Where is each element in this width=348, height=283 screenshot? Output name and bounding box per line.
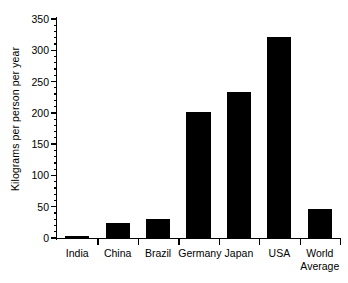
y-minor-tick-mark <box>54 219 58 220</box>
x-tick-mark <box>219 239 220 245</box>
x-axis-label: Brazil <box>138 247 178 260</box>
y-minor-tick-mark <box>54 62 58 63</box>
y-minor-tick-mark <box>54 131 58 132</box>
y-minor-tick-mark <box>54 119 58 120</box>
x-axis-label: India <box>57 247 97 260</box>
y-tick-mark <box>51 206 57 207</box>
y-tick-label: 300 <box>9 43 49 57</box>
y-tick-mark <box>51 175 57 176</box>
bar <box>227 92 251 238</box>
x-axis-label: World Average <box>300 247 340 272</box>
y-minor-tick-mark <box>54 100 58 101</box>
y-minor-tick-mark <box>54 56 58 57</box>
x-axis-label: Japan <box>219 247 259 260</box>
y-tick-label: 350 <box>9 12 49 26</box>
y-tick-label: 150 <box>9 137 49 151</box>
x-tick-mark <box>300 239 301 245</box>
y-tick-mark <box>51 50 57 51</box>
y-minor-tick-mark <box>54 187 58 188</box>
y-minor-tick-mark <box>54 194 58 195</box>
y-minor-tick-mark <box>54 125 58 126</box>
bar <box>146 219 170 238</box>
y-minor-tick-mark <box>54 93 58 94</box>
x-axis-label: Germany <box>178 247 218 260</box>
y-tick-mark <box>51 18 57 19</box>
bar <box>267 37 291 238</box>
x-tick-mark <box>97 239 98 245</box>
y-minor-tick-mark <box>54 156 58 157</box>
y-tick-label: 100 <box>9 168 49 182</box>
bar <box>106 223 130 238</box>
y-minor-tick-mark <box>54 225 58 226</box>
bar <box>186 112 210 238</box>
y-minor-tick-mark <box>54 231 58 232</box>
y-tick-mark <box>51 112 57 113</box>
y-minor-tick-mark <box>54 200 58 201</box>
y-tick-label: 0 <box>9 231 49 245</box>
x-tick-mark <box>138 239 139 245</box>
bar <box>65 236 89 239</box>
y-minor-tick-mark <box>54 68 58 69</box>
y-minor-tick-mark <box>54 37 58 38</box>
y-minor-tick-mark <box>54 106 58 107</box>
y-tick-label: 50 <box>9 200 49 214</box>
y-minor-tick-mark <box>54 212 58 213</box>
y-minor-tick-mark <box>54 25 58 26</box>
y-minor-tick-mark <box>54 137 58 138</box>
y-tick-mark <box>51 237 57 238</box>
y-tick-mark <box>51 143 57 144</box>
x-tick-mark <box>178 239 179 245</box>
y-minor-tick-mark <box>54 169 58 170</box>
x-tick-mark <box>259 239 260 245</box>
bar <box>308 209 332 238</box>
x-axis-label: China <box>97 247 137 260</box>
y-minor-tick-mark <box>54 87 58 88</box>
y-minor-tick-mark <box>54 162 58 163</box>
x-axis-label: USA <box>259 247 299 260</box>
y-tick-label: 200 <box>9 106 49 120</box>
y-tick-mark <box>51 81 57 82</box>
y-minor-tick-mark <box>54 181 58 182</box>
y-minor-tick-mark <box>54 75 58 76</box>
y-minor-tick-mark <box>54 150 58 151</box>
bar-chart-figure: Kilograms per person per year 0501001502… <box>0 0 348 283</box>
plot-area: 050100150200250300350 <box>57 19 340 238</box>
y-tick-label: 250 <box>9 75 49 89</box>
x-tick-mark <box>340 239 341 245</box>
y-minor-tick-mark <box>54 43 58 44</box>
y-minor-tick-mark <box>54 31 58 32</box>
